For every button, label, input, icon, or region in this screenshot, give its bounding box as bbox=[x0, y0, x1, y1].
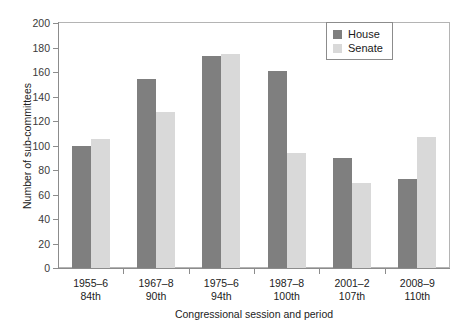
bar-senate-4 bbox=[352, 183, 371, 268]
legend: HouseSenate bbox=[326, 22, 393, 60]
x-label-period: 1955–6 bbox=[73, 277, 108, 289]
x-label-period: 2008–9 bbox=[400, 277, 435, 289]
legend-item-house: House bbox=[333, 27, 383, 41]
y-axis-tick bbox=[53, 219, 58, 220]
x-label-period: 2001–2 bbox=[334, 277, 369, 289]
bar-senate-5 bbox=[417, 137, 436, 268]
bar-senate-1 bbox=[156, 112, 175, 268]
y-axis-tick bbox=[53, 48, 58, 49]
y-axis-title: Number of sub-committees bbox=[21, 56, 33, 236]
bar-senate-0 bbox=[91, 139, 110, 268]
legend-item-senate: Senate bbox=[333, 41, 383, 55]
legend-label-senate: Senate bbox=[348, 42, 383, 55]
y-axis-line bbox=[58, 22, 59, 269]
x-label-session: 110th bbox=[377, 290, 457, 303]
y-axis-tick bbox=[53, 268, 58, 269]
x-axis-tick bbox=[254, 269, 255, 274]
x-axis-tick bbox=[123, 269, 124, 274]
y-axis-tick bbox=[53, 170, 58, 171]
bar-house-3 bbox=[268, 71, 287, 268]
y-axis-tick bbox=[53, 72, 58, 73]
y-axis-tick bbox=[53, 121, 58, 122]
legend-swatch-senate bbox=[333, 44, 342, 53]
y-axis-tick bbox=[53, 23, 58, 24]
x-label-period: 1967–8 bbox=[138, 277, 173, 289]
bar-senate-3 bbox=[287, 153, 306, 268]
bar-house-5 bbox=[398, 179, 417, 268]
bar-house-0 bbox=[72, 146, 91, 269]
x-label-period: 1987–8 bbox=[269, 277, 304, 289]
x-axis-tick bbox=[319, 269, 320, 274]
legend-swatch-house bbox=[333, 30, 342, 39]
x-axis-tick bbox=[385, 269, 386, 274]
y-axis-tick-label: 0 bbox=[20, 263, 50, 273]
bar-house-4 bbox=[333, 158, 352, 268]
y-axis-tick bbox=[53, 244, 58, 245]
x-axis-tick bbox=[189, 269, 190, 274]
y-axis-tick-label: 20 bbox=[20, 239, 50, 249]
bar-house-2 bbox=[202, 56, 221, 268]
x-label-period: 1975–6 bbox=[204, 277, 239, 289]
legend-label-house: House bbox=[348, 28, 380, 41]
y-axis-tick bbox=[53, 146, 58, 147]
y-axis-tick bbox=[53, 97, 58, 98]
y-axis-tick bbox=[53, 195, 58, 196]
chart-figure: 020406080100120140160180200 Number of su… bbox=[0, 0, 470, 330]
y-axis-tick-label: 180 bbox=[20, 43, 50, 53]
y-axis-tick-label: 200 bbox=[20, 18, 50, 28]
x-axis-group-label: 2008–9110th bbox=[377, 277, 457, 303]
bar-senate-2 bbox=[221, 54, 240, 268]
bar-house-1 bbox=[137, 79, 156, 268]
x-axis-title: Congressional session and period bbox=[58, 308, 450, 320]
